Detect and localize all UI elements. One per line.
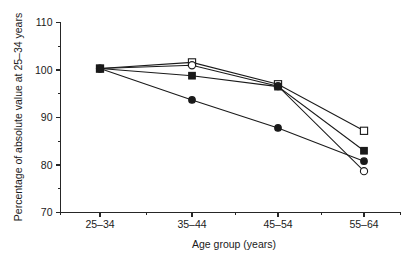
data-point-filled-square xyxy=(361,147,368,154)
data-point-filled-circle xyxy=(97,65,104,72)
y-tick-label: 110 xyxy=(36,16,53,28)
y-tick-label: 70 xyxy=(41,206,53,218)
data-point-filled-circle xyxy=(275,125,282,132)
x-tick-label: 45–54 xyxy=(263,218,292,230)
data-point-filled-square xyxy=(189,72,196,79)
y-tick-label: 100 xyxy=(35,64,53,76)
x-tick-label: 35–44 xyxy=(177,218,206,230)
x-tick-label: 55–64 xyxy=(349,218,378,230)
data-point-filled-circle xyxy=(189,97,196,104)
y-tick-label: 90 xyxy=(41,111,53,123)
data-point-filled-square xyxy=(275,83,282,90)
line-chart: 708090100110 25–3435–4445–5455–64 Age gr… xyxy=(0,0,412,265)
y-tick-label: 80 xyxy=(41,159,53,171)
y-axis-title: Percentage of absolute value at 25–34 ye… xyxy=(12,13,24,221)
data-point-open-circle xyxy=(188,62,195,69)
data-point-filled-circle xyxy=(361,158,368,165)
data-point-open-circle xyxy=(360,168,367,175)
x-axis-title: Age group (years) xyxy=(192,238,276,250)
data-point-open-square xyxy=(360,127,367,134)
x-tick-label: 25–34 xyxy=(85,218,114,230)
chart-container: 708090100110 25–3435–4445–5455–64 Age gr… xyxy=(0,0,412,265)
